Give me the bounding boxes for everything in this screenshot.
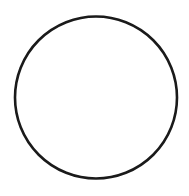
background [0, 0, 189, 196]
diagram-canvas [0, 0, 189, 196]
